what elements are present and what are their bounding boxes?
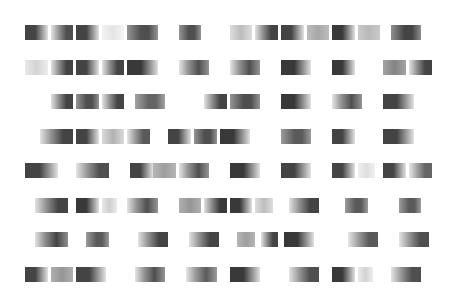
gradient-block	[127, 60, 157, 75]
gradient-block	[204, 94, 227, 109]
gradient-block	[76, 198, 99, 213]
gradient-block	[25, 60, 48, 75]
gradient-block	[130, 163, 153, 178]
gradient-block	[383, 163, 406, 178]
gradient-block	[307, 25, 330, 40]
gradient-block	[102, 94, 125, 109]
gradient-block	[345, 198, 368, 213]
gradient-block	[230, 60, 260, 75]
gradient-block	[25, 163, 58, 178]
gradient-block	[76, 94, 99, 109]
gradient-block	[76, 129, 99, 144]
gradient-block	[332, 25, 355, 40]
gradient-block	[76, 60, 99, 75]
gradient-block	[383, 94, 413, 109]
gradient-block	[332, 267, 355, 282]
gradient-block	[230, 198, 253, 213]
gradient-block	[35, 232, 68, 247]
gradient-block	[255, 198, 272, 213]
gradient-block	[358, 267, 373, 282]
gradient-block	[399, 232, 429, 247]
gradient-block	[383, 129, 413, 144]
gradient-block	[127, 25, 157, 40]
gradient-block	[332, 129, 355, 144]
gradient-block	[409, 163, 432, 178]
gradient-block	[289, 198, 319, 213]
gradient-block	[204, 198, 227, 213]
gradient-block	[281, 60, 311, 75]
gradient-block	[332, 163, 355, 178]
gradient-block	[138, 232, 168, 247]
gradient-block	[102, 60, 125, 75]
gradient-block	[281, 163, 311, 178]
gradient-block	[76, 267, 106, 282]
gradient-block	[230, 267, 260, 282]
gradient-block	[86, 232, 109, 247]
gradient-block	[25, 267, 48, 282]
gradient-block	[237, 232, 254, 247]
gradient-block	[399, 198, 422, 213]
gradient-block	[40, 129, 73, 144]
gradient-block	[230, 163, 260, 178]
gradient-block	[179, 163, 209, 178]
gradient-block	[409, 60, 432, 75]
gradient-block	[51, 25, 74, 40]
gradient-block	[25, 25, 48, 40]
gradient-block	[102, 25, 125, 40]
gradient-block	[76, 25, 99, 40]
gradient-block	[51, 267, 74, 282]
gradient-block	[383, 60, 406, 75]
gradient-block	[281, 94, 311, 109]
gradient-block	[102, 129, 125, 144]
gradient-block	[179, 198, 202, 213]
gradient-block	[76, 163, 109, 178]
gradient-block	[332, 94, 362, 109]
gradient-block	[153, 163, 176, 178]
gradient-block	[179, 25, 202, 40]
gradient-block	[332, 60, 355, 75]
gradient-block	[281, 25, 304, 40]
gradient-block	[51, 60, 74, 75]
gradient-block	[179, 60, 209, 75]
gradient-block	[391, 267, 421, 282]
gradient-block	[261, 232, 278, 247]
gradient-block	[127, 198, 157, 213]
gradient-block	[135, 267, 165, 282]
gradient-block-pattern	[0, 0, 458, 294]
gradient-block	[102, 198, 117, 213]
gradient-block	[186, 267, 216, 282]
gradient-block	[135, 94, 165, 109]
gradient-block	[51, 94, 74, 109]
gradient-block	[281, 129, 311, 144]
gradient-block	[127, 129, 150, 144]
gradient-block	[358, 25, 381, 40]
gradient-block	[35, 198, 68, 213]
gradient-block	[194, 129, 217, 144]
gradient-block	[284, 232, 314, 247]
gradient-block	[168, 129, 191, 144]
gradient-block	[189, 232, 219, 247]
gradient-block	[230, 25, 253, 40]
gradient-block	[358, 163, 375, 178]
gradient-block	[255, 25, 278, 40]
gradient-block	[391, 25, 421, 40]
gradient-block	[230, 94, 260, 109]
gradient-block	[289, 267, 319, 282]
gradient-block	[220, 129, 250, 144]
gradient-block	[348, 232, 378, 247]
